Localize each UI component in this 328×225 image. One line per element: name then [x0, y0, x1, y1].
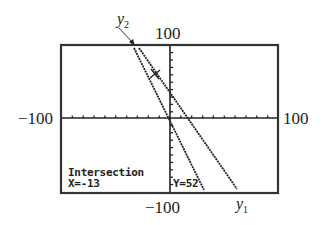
ymax-label: 100: [155, 25, 181, 42]
series-y1-label: y1: [236, 196, 248, 218]
series-y2-label: y2: [117, 11, 129, 33]
intersection-x-value: X=-13: [68, 178, 100, 189]
intersection-cursor-icon: [150, 69, 160, 79]
xmin-label: −100: [18, 110, 53, 127]
series-y2-line: [134, 48, 204, 190]
ymin-label: −100: [145, 199, 180, 216]
y2-label-sub: 2: [124, 19, 129, 30]
xmax-label: 100: [283, 110, 309, 127]
y1-label-sub: 1: [243, 204, 248, 215]
intersection-y-value: Y=52: [173, 178, 198, 189]
